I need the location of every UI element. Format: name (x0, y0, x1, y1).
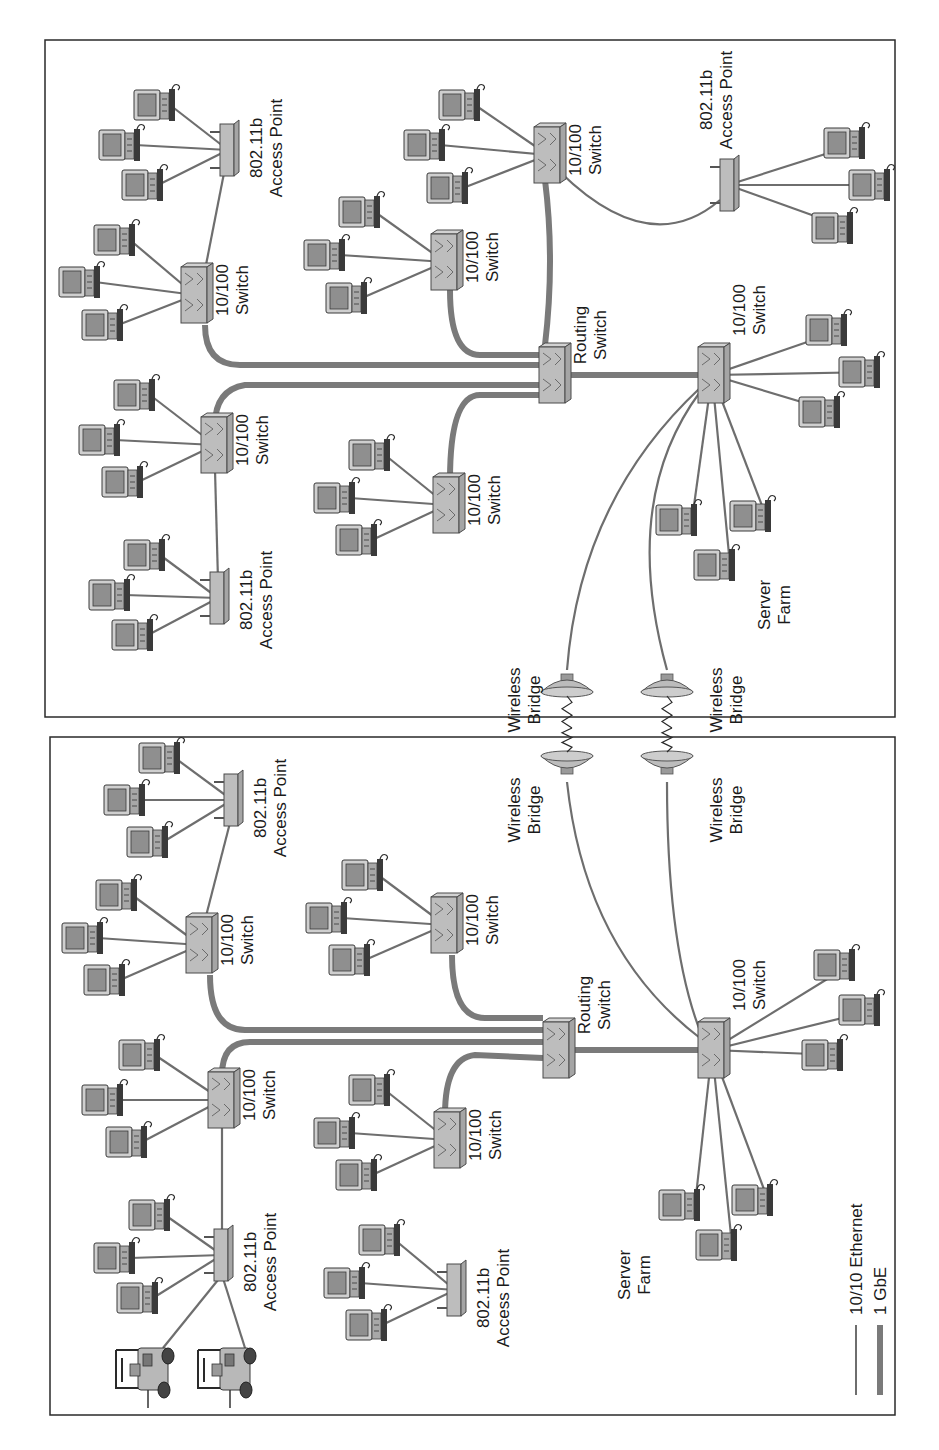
access-point-icon[interactable] (710, 155, 739, 211)
computer-icon[interactable] (96, 875, 142, 912)
switch-icon[interactable] (201, 413, 233, 473)
computer-icon[interactable] (104, 780, 150, 817)
computer-icon[interactable] (427, 168, 473, 205)
computer-icon[interactable] (59, 262, 105, 299)
computer-icon[interactable] (106, 1122, 152, 1159)
computer-icon[interactable] (696, 1225, 742, 1262)
switch-label-line: Switch (483, 895, 502, 945)
switch-icon[interactable] (534, 123, 566, 183)
computer-icon[interactable] (659, 1185, 705, 1222)
switch-icon[interactable] (208, 1068, 240, 1128)
wireless-bridge-icon[interactable] (541, 751, 593, 774)
switch-icon[interactable] (698, 1018, 730, 1078)
computer-icon[interactable] (336, 1155, 382, 1192)
switch-icon[interactable] (186, 913, 218, 973)
switch-icon[interactable] (431, 893, 463, 953)
legend: 10/10 Ethernet 1 GbE (847, 1203, 890, 1395)
computer-icon[interactable] (799, 392, 845, 429)
switch-icon[interactable] (433, 473, 465, 533)
computer-icon[interactable] (304, 235, 350, 272)
computer-icon[interactable] (326, 278, 372, 315)
gbe-link (210, 975, 543, 1030)
gbe-link (450, 290, 540, 355)
computer-icon[interactable] (127, 822, 173, 859)
forklift-icon[interactable] (198, 1348, 256, 1408)
computer-icon[interactable] (129, 1195, 175, 1232)
pc-link (153, 1255, 222, 1298)
switch-label-line: Switch (591, 310, 610, 360)
routing-switch-icon[interactable] (543, 1018, 575, 1078)
computer-icon[interactable] (802, 1035, 848, 1072)
access-point-icon[interactable] (200, 568, 229, 624)
computer-icon[interactable] (84, 960, 130, 997)
computer-icon[interactable] (82, 305, 128, 342)
computer-icon[interactable] (124, 535, 170, 572)
computer-icon[interactable] (404, 125, 450, 162)
wireless-bridge-label-line: Wireless (505, 667, 524, 732)
computer-icon[interactable] (839, 352, 885, 389)
computer-icon[interactable] (349, 435, 395, 472)
computer-icon[interactable] (324, 1263, 370, 1300)
server-farm-label-line: Farm (775, 585, 794, 625)
routing-switch-icon[interactable] (539, 343, 571, 403)
computer-icon[interactable] (119, 1035, 165, 1072)
switch-icon[interactable] (434, 1108, 466, 1168)
switch-label-line: Switch (586, 125, 605, 175)
computer-icon[interactable] (82, 1080, 128, 1117)
computer-icon[interactable] (349, 1070, 395, 1107)
switch-label-line: Switch (486, 1110, 505, 1160)
computer-icon[interactable] (849, 165, 895, 202)
forklift-icon[interactable] (116, 1348, 174, 1408)
switch-icon[interactable] (698, 343, 730, 403)
access-point-icon[interactable] (210, 120, 239, 176)
computer-icon[interactable] (336, 520, 382, 557)
computer-icon[interactable] (346, 1305, 392, 1342)
switch-label-line: 10/100 (730, 959, 749, 1011)
computer-icon[interactable] (134, 85, 180, 122)
network-diagram: WirelessBridgeWirelessBridge10/100Switch… (0, 0, 939, 1450)
computer-icon[interactable] (439, 85, 485, 122)
wireless-bridge-icon[interactable] (641, 674, 693, 697)
switch-label-line: Switch (595, 980, 614, 1030)
computer-icon[interactable] (656, 500, 702, 537)
computer-icon[interactable] (306, 898, 352, 935)
computer-icon[interactable] (806, 310, 852, 347)
switch-icon[interactable] (181, 263, 213, 323)
computer-icon[interactable] (339, 192, 385, 229)
computer-icon[interactable] (730, 496, 776, 533)
switch-label: 10/100Switch (240, 1069, 279, 1121)
wireless-bridge-icon[interactable] (641, 751, 693, 774)
computer-icon[interactable] (139, 738, 185, 775)
switch-icon[interactable] (431, 230, 463, 290)
computer-icon[interactable] (122, 165, 168, 202)
computer-icon[interactable] (89, 575, 135, 612)
wireless-bridge-icon[interactable] (541, 674, 593, 697)
computer-icon[interactable] (812, 208, 858, 245)
pc-link (340, 255, 445, 262)
switch-label-line: Switch (485, 475, 504, 525)
computer-icon[interactable] (94, 1238, 140, 1275)
computer-icon[interactable] (62, 918, 108, 955)
computer-icon[interactable] (102, 462, 148, 499)
computer-icon[interactable] (99, 125, 145, 162)
server-farm-label: ServerFarm (615, 1250, 654, 1300)
computer-icon[interactable] (359, 1220, 405, 1257)
computer-icon[interactable] (839, 990, 885, 1027)
computer-icon[interactable] (732, 1180, 778, 1217)
computer-icon[interactable] (314, 1113, 360, 1150)
access-point-icon[interactable] (204, 1225, 233, 1281)
computer-icon[interactable] (79, 420, 125, 457)
computer-icon[interactable] (314, 478, 360, 515)
access-point-icon[interactable] (214, 770, 243, 826)
computer-icon[interactable] (114, 375, 160, 412)
switch-label-line: Switch (750, 960, 769, 1010)
computer-icon[interactable] (112, 615, 158, 652)
computer-icon[interactable] (329, 940, 375, 977)
computer-icon[interactable] (342, 855, 388, 892)
computer-icon[interactable] (824, 123, 870, 160)
computer-icon[interactable] (814, 945, 860, 982)
computer-icon[interactable] (117, 1278, 163, 1315)
computer-icon[interactable] (694, 545, 740, 582)
gbe-link (450, 395, 540, 480)
computer-icon[interactable] (94, 220, 140, 257)
